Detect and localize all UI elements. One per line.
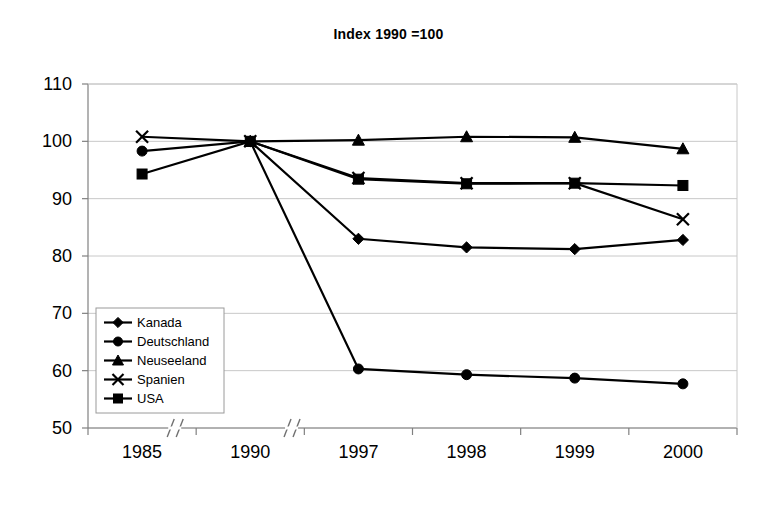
legend-item-label: USA	[137, 391, 164, 406]
square-marker	[245, 136, 255, 146]
square-marker	[570, 178, 580, 188]
chart-container: Index 1990 =100 5060708090100110 1985199…	[0, 0, 777, 511]
chart-legend: KanadaDeutschlandNeuseelandSpanienUSA	[96, 308, 224, 413]
y-axis-tick-label: 100	[42, 131, 72, 151]
diamond-marker	[677, 234, 688, 245]
x-axis-tick-label: 1997	[338, 442, 378, 462]
circle-marker	[137, 146, 147, 156]
square-marker	[678, 180, 688, 190]
x-axis-tick-label: 1998	[447, 442, 487, 462]
y-axis-tick-label: 90	[52, 189, 72, 209]
legend-item-label: Neuseeland	[137, 353, 206, 368]
square-marker	[462, 179, 472, 189]
y-axis-tick-label: 60	[52, 361, 72, 381]
x-axis-tick-label: 2000	[663, 442, 703, 462]
circle-marker	[353, 364, 363, 374]
axis-break-gap	[285, 427, 298, 430]
x-axis-tick-label: 1985	[122, 442, 162, 462]
legend-item-label: Deutschland	[137, 334, 209, 349]
circle-marker	[114, 337, 123, 346]
series-line	[250, 141, 683, 249]
series-neuseeland	[244, 131, 689, 154]
legend-item-label: Kanada	[137, 315, 183, 330]
y-axis-tick-labels: 5060708090100110	[42, 74, 88, 438]
square-marker	[114, 394, 123, 403]
cross-marker	[677, 213, 689, 225]
circle-marker	[678, 379, 688, 389]
x-axis-tick-label: 1999	[555, 442, 595, 462]
x-axis-tick-labels: 198519901997199819992000	[88, 428, 737, 462]
series-kanada	[245, 136, 689, 255]
diamond-marker	[569, 244, 580, 255]
y-axis-tick-label: 110	[43, 74, 72, 94]
square-marker	[137, 169, 147, 179]
y-axis-tick-label: 70	[52, 303, 72, 323]
axis-break-gap	[168, 427, 181, 430]
square-marker	[353, 174, 363, 184]
legend-item-label: Spanien	[137, 372, 185, 387]
circle-marker	[570, 373, 580, 383]
line-chart-plot: 5060708090100110 19851990199719981999200…	[0, 0, 777, 511]
y-axis-tick-label: 50	[52, 418, 72, 438]
x-axis-tick-label: 1990	[230, 442, 270, 462]
series-line	[142, 141, 683, 185]
y-axis-tick-label: 80	[52, 246, 72, 266]
diamond-marker	[461, 242, 472, 253]
circle-marker	[462, 370, 472, 380]
